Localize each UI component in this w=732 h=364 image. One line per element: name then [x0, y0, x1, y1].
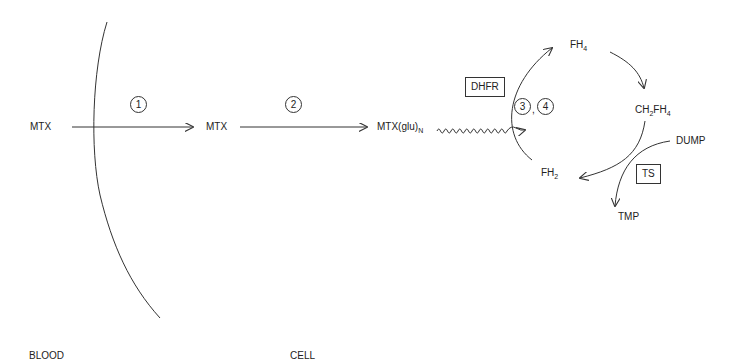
fh4-label: FH4 [570, 39, 587, 51]
ch2fh4-label: CH2FH4 [635, 104, 671, 116]
fh2-subscript: 2 [554, 173, 558, 180]
mtx-polyglutamate-label: MTX(glu)N [377, 121, 423, 133]
fh4-subscript: 4 [583, 45, 587, 52]
ts-enzyme-box: TS [636, 164, 661, 184]
fh4-text: FH [570, 39, 583, 50]
ch2fh4-text-b: FH [653, 104, 666, 115]
fh2-label: FH2 [541, 167, 558, 179]
tmp-label: TMP [618, 211, 639, 223]
step-separator: , [532, 104, 535, 115]
mtx-cell-label: MTX [206, 121, 227, 133]
mtx-blood-label: MTX [30, 121, 51, 133]
ch2fh4-text-a: CH [635, 104, 649, 115]
cell-membrane-curve [94, 22, 160, 318]
fh4-to-ch2fh4-arrow [610, 52, 644, 88]
step-2-circle: 2 [285, 96, 302, 113]
fh2-text: FH [541, 167, 554, 178]
cell-region-label: CELL [290, 350, 315, 362]
dump-label: DUMP [676, 135, 705, 147]
blood-region-label: BLOOD [29, 350, 64, 362]
mtx-glu-subscript: N [418, 127, 423, 134]
step-3-circle: 3 [514, 98, 531, 115]
mtx-glu-text: MTX(glu) [377, 121, 418, 132]
step-1-circle: 1 [130, 96, 147, 113]
dhfr-enzyme-box: DHFR [465, 77, 505, 97]
diagram-lines [0, 0, 732, 364]
step-4-circle: 4 [537, 98, 554, 115]
ch2fh4-subscript-2: 4 [667, 110, 671, 117]
inhibition-wavy-line [437, 127, 525, 133]
